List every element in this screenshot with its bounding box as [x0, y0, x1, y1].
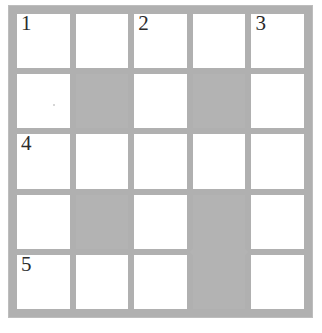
stray-pencil-mark: [53, 104, 55, 106]
crossword-open-cell[interactable]: [73, 252, 132, 312]
crossword-open-cell[interactable]: [14, 192, 73, 252]
crossword-open-cell[interactable]: 1: [14, 11, 73, 71]
crossword-open-cell[interactable]: [131, 131, 190, 191]
cell-number: 4: [21, 133, 32, 154]
crossword-open-cell[interactable]: 3: [248, 11, 307, 71]
cell-number: 1: [21, 13, 32, 34]
crossword-blocked-cell: [73, 192, 132, 252]
crossword-open-cell[interactable]: [131, 71, 190, 131]
cell-number: 3: [255, 13, 266, 34]
crossword-open-cell[interactable]: [248, 131, 307, 191]
crossword-blocked-cell: [190, 71, 249, 131]
crossword-open-cell[interactable]: [73, 131, 132, 191]
crossword-open-cell[interactable]: [131, 252, 190, 312]
crossword-open-cell[interactable]: 2: [131, 11, 190, 71]
crossword-blocked-cell: [190, 252, 249, 312]
crossword-open-cell[interactable]: [248, 192, 307, 252]
crossword-open-cell[interactable]: 5: [14, 252, 73, 312]
crossword-open-cell[interactable]: [131, 192, 190, 252]
crossword-open-cell[interactable]: [190, 131, 249, 191]
crossword-blocked-cell: [73, 71, 132, 131]
cell-number: 2: [138, 13, 149, 34]
crossword-open-cell[interactable]: [190, 11, 249, 71]
crossword-open-cell[interactable]: [248, 71, 307, 131]
crossword-open-cell[interactable]: [14, 71, 73, 131]
crossword-open-cell[interactable]: [248, 252, 307, 312]
cell-number: 5: [21, 254, 32, 275]
crossword-grid[interactable]: 12345: [8, 5, 313, 318]
crossword-puzzle: 12345: [0, 0, 322, 333]
crossword-blocked-cell: [190, 192, 249, 252]
crossword-open-cell[interactable]: 4: [14, 131, 73, 191]
crossword-open-cell[interactable]: [73, 11, 132, 71]
